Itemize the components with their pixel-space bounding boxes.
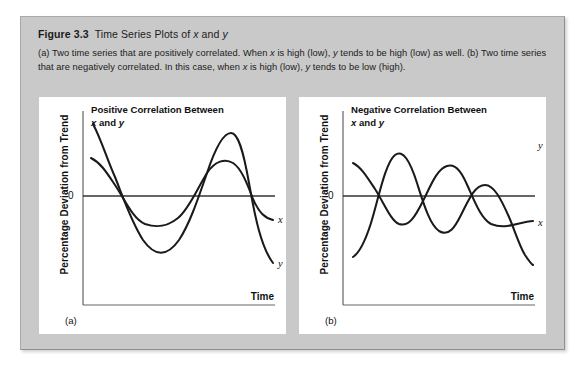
chart-a-plot-area: x y xyxy=(39,97,286,334)
figure-title: Figure 3.3 Time Series Plots of x and y xyxy=(38,27,548,41)
chart-panel-a: Positive Correlation Between x and y Per… xyxy=(39,97,286,334)
figure-number: Figure 3.3 xyxy=(38,28,89,40)
chart-b-plot-area: x y xyxy=(299,97,546,334)
chart-b-series-y xyxy=(353,153,533,265)
chart-b-label-x: x xyxy=(537,217,543,228)
figure-caption: Figure 3.3 Time Series Plots of x and y … xyxy=(38,27,548,74)
figure-title-and: and xyxy=(199,28,223,40)
chart-a-label-y: y xyxy=(277,258,283,269)
figure-title-var-y: y xyxy=(222,28,227,40)
caption-seg-1: (a) Two time series that are positively … xyxy=(38,48,270,58)
chart-b-label-y: y xyxy=(537,140,543,151)
figure-caption-text: (a) Two time series that are positively … xyxy=(38,47,548,74)
chart-b-series-x xyxy=(353,163,533,226)
figure-panel: Figure 3.3 Time Series Plots of x and y … xyxy=(20,16,565,350)
chart-a-label-x: x xyxy=(277,214,283,225)
chart-panel-b: Negative Correlation Between x and y Per… xyxy=(299,97,546,334)
caption-seg-4: is high (low), xyxy=(247,62,305,72)
caption-seg-2: is high (low), xyxy=(275,48,333,58)
caption-seg-5: tends to be low (high). xyxy=(310,62,405,72)
figure-title-prefix: Time Series Plots of xyxy=(95,28,194,40)
